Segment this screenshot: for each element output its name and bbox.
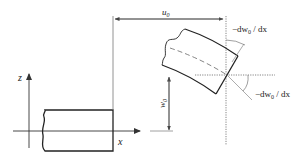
z-axis-label: z <box>17 72 22 83</box>
beam-deformation-diagram: z x u0 w0 −dw <box>0 0 306 163</box>
undeformed-beam <box>42 110 113 151</box>
x-axis-label: x <box>117 136 123 147</box>
u0-label: u0 <box>162 7 170 18</box>
deformed-beam <box>162 29 238 94</box>
slope-label-top: −dw0 / dx <box>232 24 268 35</box>
angle-arc-top <box>226 40 245 45</box>
w0-label: w0 <box>157 99 168 108</box>
angle-arc-right <box>243 75 248 91</box>
slope-label-right: −dw0 / dx <box>255 89 291 100</box>
